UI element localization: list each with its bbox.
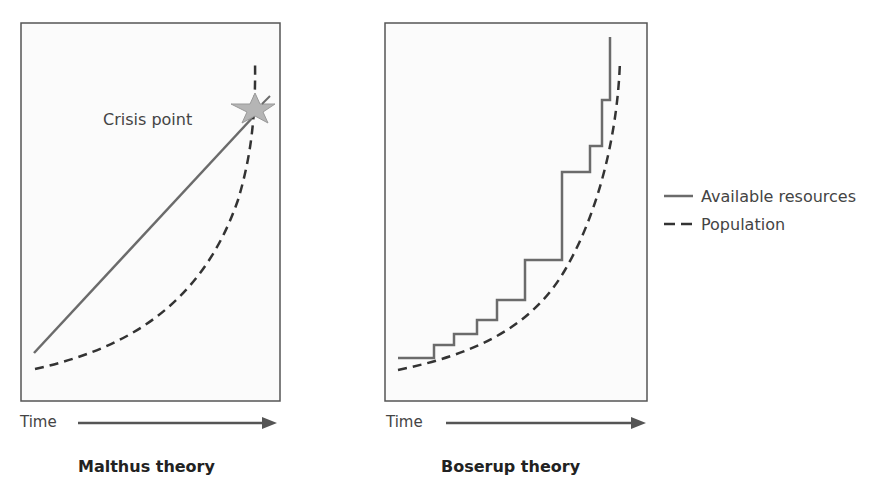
malthus-chart <box>0 0 882 489</box>
malthus-time-label: Time <box>20 413 57 431</box>
legend-item-population: Population <box>663 214 785 234</box>
legend-label-resources: Available resources <box>701 187 856 206</box>
crisis-point-label: Crisis point <box>103 110 192 129</box>
malthus-panel: Crisis point Time Malthus theory <box>0 0 882 489</box>
malthus-title: Malthus theory <box>78 457 215 476</box>
legend-item-resources: Available resources <box>663 186 856 206</box>
malthus-frame <box>21 23 280 401</box>
malthus-arrowhead-icon <box>262 417 277 429</box>
solid-line-icon <box>663 186 695 206</box>
dashed-line-icon <box>663 214 695 234</box>
legend-label-population: Population <box>701 215 785 234</box>
